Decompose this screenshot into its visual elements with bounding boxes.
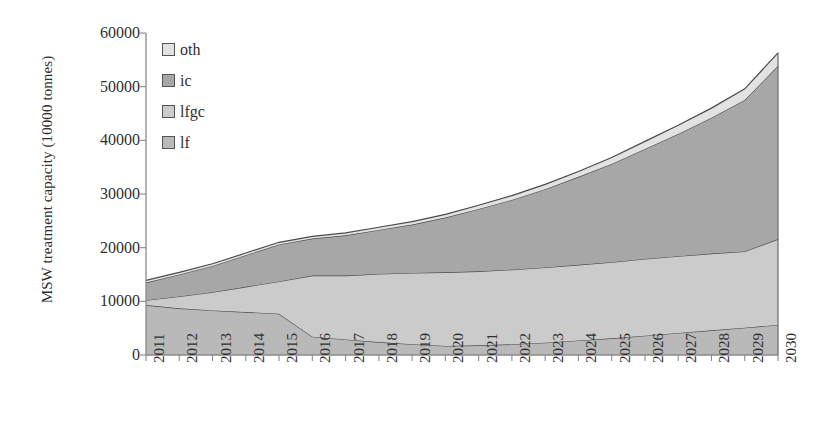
chart-figure: MSW treatment capacity (10000 tonnes) 01…	[0, 0, 823, 431]
legend-item-lfgc[interactable]: lfgc	[162, 96, 252, 127]
x-tick-label: 2022	[518, 333, 533, 363]
chart-legend: othiclfgclf	[162, 34, 252, 158]
x-tick-label: 2021	[485, 333, 500, 363]
x-tick-label: 2016	[318, 333, 333, 363]
x-tick-label: 2017	[352, 333, 367, 363]
legend-item-lf[interactable]: lf	[162, 127, 252, 158]
legend-swatch-icon	[162, 105, 175, 118]
legend-label: lfgc	[180, 104, 205, 120]
legend-label: lf	[180, 135, 190, 151]
x-tick-label: 2020	[451, 333, 466, 363]
x-tick-label: 2027	[684, 333, 699, 363]
legend-label: ic	[180, 73, 192, 89]
legend-label: oth	[180, 42, 200, 58]
legend-swatch-icon	[162, 136, 175, 149]
x-tick-label: 2013	[219, 333, 234, 363]
x-tick-label: 2011	[152, 334, 167, 363]
x-tick-label: 2029	[751, 333, 766, 363]
x-tick-label: 2025	[618, 333, 633, 363]
x-tick-label: 2026	[651, 333, 666, 363]
x-axis-tick-labels: 2011201220132014201520162017201820192020…	[0, 0, 823, 431]
x-tick-label: 2018	[385, 333, 400, 363]
legend-item-oth[interactable]: oth	[162, 34, 252, 65]
x-tick-label: 2028	[717, 333, 732, 363]
x-tick-label: 2023	[551, 333, 566, 363]
legend-swatch-icon	[162, 74, 175, 87]
x-tick-label: 2015	[285, 333, 300, 363]
x-tick-label: 2024	[584, 333, 599, 363]
legend-swatch-icon	[162, 43, 175, 56]
x-tick-label: 2030	[784, 333, 799, 363]
legend-item-ic[interactable]: ic	[162, 65, 252, 96]
x-tick-label: 2012	[185, 333, 200, 363]
x-tick-label: 2014	[252, 333, 267, 363]
x-tick-label: 2019	[418, 333, 433, 363]
